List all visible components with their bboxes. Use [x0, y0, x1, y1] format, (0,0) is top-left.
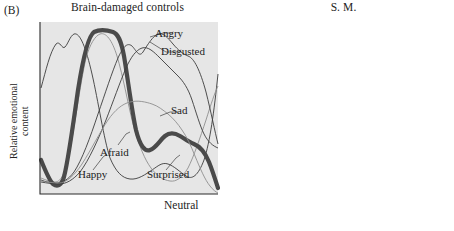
panel-sm: S. M. Relative emotional content Neutral [227, 0, 454, 231]
curve-label-surprised-left: Surprised [147, 168, 189, 180]
curve-label-disgusted-left: Disgusted [161, 45, 205, 57]
curve-label-angry-left: Angry [155, 27, 183, 39]
panel-title-right: S. M. [227, 1, 454, 13]
panel-brain-damaged-controls: (B) Brain-damaged controls Relative emot… [0, 0, 227, 231]
plot-svg-left [0, 0, 227, 231]
curve-label-happy-left: Happy [78, 168, 107, 180]
curve-label-sad-left: Sad [171, 104, 188, 116]
curve-label-afraid-left: Afraid [100, 146, 129, 158]
figure-panel-b: (B) Brain-damaged controls Relative emot… [0, 0, 454, 231]
